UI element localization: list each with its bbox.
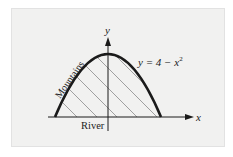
river-label: River xyxy=(81,120,105,131)
x-axis-arrow-icon xyxy=(185,114,194,120)
hatched-region xyxy=(0,40,197,117)
parabola-diagram: x y y = 4 − x2 Mountains River xyxy=(0,0,233,157)
x-axis-label: x xyxy=(195,111,201,123)
y-axis-arrow-icon xyxy=(105,37,111,46)
x-axis xyxy=(48,114,194,120)
mountains-label: Mountains xyxy=(53,59,87,100)
equation-label: y = 4 − x2 xyxy=(137,55,183,68)
y-axis-label: y xyxy=(104,24,110,36)
